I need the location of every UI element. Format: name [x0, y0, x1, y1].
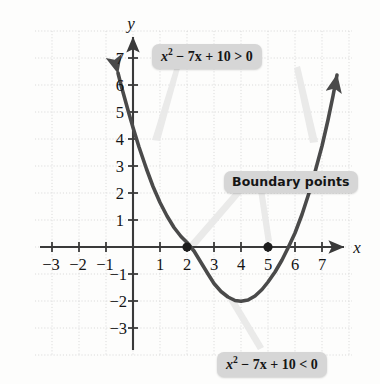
- callout-positive-base: x: [161, 49, 168, 64]
- callout-negative-text: x2 − 7x + 10 < 0: [226, 357, 318, 372]
- y-tick-label: 6: [116, 76, 124, 95]
- y-tick-label: 4: [116, 130, 124, 149]
- callout-positive-rest: − 7x + 10 > 0: [173, 49, 253, 64]
- quadratic-inequality-figure: −3 −2 −1 1 2 3 4 5 6 7 7 6 5 4 3 2 1 −1 …: [0, 0, 380, 384]
- boundary-point-right-dot: [263, 242, 272, 251]
- y-tick-label: −3: [109, 319, 127, 338]
- x-tick-label: 6: [291, 255, 299, 274]
- callout-positive-inequality: x2 − 7x + 10 > 0: [152, 44, 262, 69]
- y-tick-label: 2: [116, 184, 124, 203]
- x-tick-label: 3: [210, 255, 218, 274]
- pointer-negative: [228, 297, 264, 350]
- y-tick-label: 1: [116, 211, 124, 230]
- y-tick-label: 3: [116, 157, 124, 176]
- y-tick-label: −2: [109, 292, 127, 311]
- y-tick-label: 5: [116, 103, 124, 122]
- y-tick-label: 7: [116, 49, 124, 68]
- x-tick-label: 2: [183, 255, 191, 274]
- callout-boundary-points: Boundary points: [224, 171, 358, 193]
- x-tick-label: −3: [42, 255, 60, 274]
- x-tick-label: −2: [69, 255, 87, 274]
- callout-positive-text: x2 − 7x + 10 > 0: [161, 49, 253, 64]
- x-tick-label: 5: [264, 255, 272, 274]
- callout-boundary-text: Boundary points: [232, 174, 350, 189]
- pointer-positive-left: [152, 66, 180, 141]
- pointer-positive-right: [294, 66, 318, 143]
- pointer-boundary-right: [258, 189, 272, 244]
- x-tick-label: 7: [318, 255, 326, 274]
- grid-lines: [35, 31, 352, 355]
- pointer-boundary-left: [188, 190, 242, 249]
- x-axis-label: x: [352, 238, 361, 257]
- callout-negative-base: x: [226, 357, 233, 372]
- callout-negative-rest: − 7x + 10 < 0: [238, 357, 318, 372]
- callout-negative-inequality: x2 − 7x + 10 < 0: [217, 352, 327, 377]
- boundary-point-left-dot: [182, 242, 191, 251]
- x-tick-label: 4: [237, 255, 245, 274]
- y-axis-label: y: [125, 14, 135, 33]
- x-tick-label: 1: [156, 255, 164, 274]
- y-tick-label: −1: [109, 265, 127, 284]
- callout-pointers: [152, 66, 318, 350]
